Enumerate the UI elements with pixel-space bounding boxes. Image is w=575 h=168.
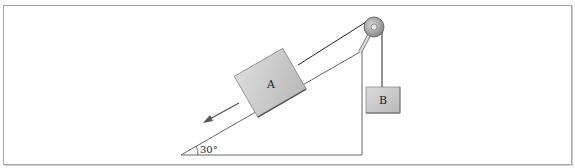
block-b-label: B <box>379 94 387 107</box>
motion-arrow-icon <box>203 103 239 123</box>
block-a-label: A <box>266 78 276 91</box>
angle-marker: 30° <box>196 144 218 155</box>
pulley <box>364 17 384 37</box>
incline-pulley-diagram: 30° A B <box>0 0 575 168</box>
block-b: B <box>366 87 400 113</box>
block-a: A <box>234 48 306 117</box>
angle-label: 30° <box>200 144 218 155</box>
rope-a <box>298 22 366 65</box>
